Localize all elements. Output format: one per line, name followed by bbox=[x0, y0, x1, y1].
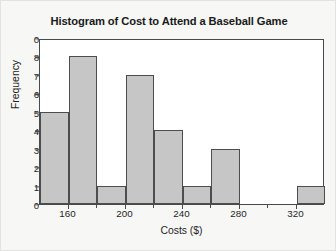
histogram-bar bbox=[183, 186, 212, 204]
plot-area bbox=[39, 39, 324, 205]
histogram-bar bbox=[97, 186, 126, 204]
histogram-bar bbox=[126, 75, 155, 204]
histogram-bar bbox=[40, 112, 69, 204]
x-axis-tick-label: 200 bbox=[105, 208, 145, 219]
chart-title: Histogram of Cost to Attend a Baseball G… bbox=[1, 15, 336, 27]
x-axis-tick-label: 280 bbox=[219, 208, 259, 219]
x-axis-tick-labels: 160200240280320 bbox=[39, 208, 324, 222]
histogram-bar bbox=[69, 56, 98, 204]
x-axis-tick-label: 240 bbox=[162, 208, 202, 219]
histogram-bars bbox=[40, 40, 323, 204]
histogram-figure: Histogram of Cost to Attend a Baseball G… bbox=[0, 0, 336, 251]
histogram-bar bbox=[154, 130, 183, 204]
histogram-bar bbox=[297, 186, 326, 204]
histogram-bar bbox=[211, 149, 240, 204]
x-axis-tick-label: 160 bbox=[48, 208, 88, 219]
x-axis-tick-label: 320 bbox=[276, 208, 316, 219]
x-axis-title: Costs ($) bbox=[39, 225, 324, 236]
